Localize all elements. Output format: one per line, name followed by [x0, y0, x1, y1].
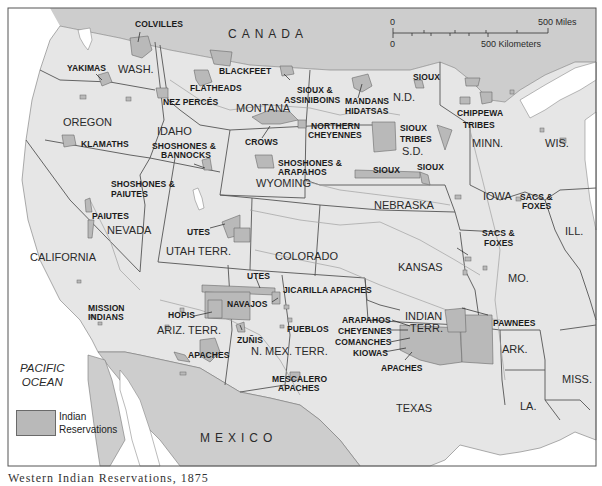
- state-label-indian-terr-1: INDIAN: [405, 311, 442, 322]
- state-label-california: CALIFORNIA: [30, 252, 96, 263]
- tribe-label-crows: CROWS: [245, 138, 278, 147]
- tribe-label-sioux-tribes-2: TRIBES: [400, 135, 432, 144]
- tribe-label-arapahos: ARAPAHOS: [342, 316, 391, 325]
- state-label-sd: S.D.: [402, 146, 423, 157]
- tribe-label-flatheads: FLATHEADS: [190, 84, 242, 93]
- tribe-label-cheyennes: CHEYENNES: [338, 327, 392, 336]
- state-label-oregon: OREGON: [63, 117, 112, 128]
- tribe-label-chippewa-2: TRIBES: [463, 121, 495, 130]
- reservation-northern-cheyennes: [298, 120, 306, 128]
- tribe-label-pawnees: PAWNEES: [493, 319, 536, 328]
- tribe-label-yakimas: YAKIMAS: [67, 64, 106, 73]
- tribe-label-apaches-az: APACHES: [188, 351, 230, 360]
- state-label-la: LA.: [520, 401, 537, 412]
- reservation-jicarilla: [272, 292, 280, 304]
- state-label-mo: MO.: [508, 273, 529, 284]
- reservation-chippewa-3: [460, 97, 470, 104]
- state-label-indian-terr-2: TERR.: [410, 323, 443, 334]
- tribe-label-kiowas: KIOWAS: [353, 349, 388, 358]
- tribe-label-sioux-assiniboins-1: SIOUX &: [297, 86, 333, 95]
- tribe-label-sacs-foxes-kansas-2: FOXES: [484, 239, 513, 248]
- tribe-label-sioux-tribes-1: SIOUX: [400, 124, 427, 133]
- tribe-label-hidatsas: HIDATSAS: [345, 107, 389, 116]
- legend-label-line-2: Reservations: [59, 424, 117, 437]
- state-label-wash: WASH.: [118, 64, 154, 75]
- state-label-texas: TEXAS: [396, 403, 432, 414]
- ocean-label: PACIFIC OCEAN: [20, 362, 65, 390]
- legend-label-line-1: Indian: [59, 411, 117, 424]
- tribe-label-mission-2: INDIANS: [88, 313, 124, 322]
- state-label-miss: MISS.: [562, 374, 592, 385]
- country-label-canada: CANADA: [228, 28, 308, 40]
- state-label-nd: N.D.: [393, 92, 415, 103]
- tribe-label-comanches: COMANCHES: [335, 338, 392, 347]
- reservation-chippewa-2: [480, 92, 492, 104]
- state-label-kansas: KANSAS: [398, 262, 443, 273]
- state-label-utah: UTAH TERR.: [166, 246, 231, 257]
- state-label-montana: MONTANA: [236, 103, 290, 114]
- state-label-colorado: COLORADO: [275, 251, 338, 262]
- tribe-label-zunis: ZUÑIS: [237, 336, 263, 345]
- tribe-label-hopis: HOPIS: [168, 311, 195, 320]
- map-caption: Western Indian Reservations, 1875: [8, 471, 209, 486]
- state-label-nebraska: NEBRASKA: [374, 200, 434, 211]
- tribe-label-chippewa-1: CHIPPEWA: [457, 109, 503, 118]
- tribe-label-jicarilla: JICARILLA APACHES: [283, 286, 372, 295]
- tribe-label-mescalero-2: APACHES: [278, 384, 320, 393]
- tribe-label-paiutes: PAIUTES: [92, 212, 129, 221]
- tribe-label-northern-cheyennes-2: CHEYENNES: [308, 131, 362, 140]
- ocean-label-line-2: OCEAN: [20, 376, 65, 390]
- reservation-klamaths: [62, 135, 76, 147]
- tribe-label-navajos: NAVAJOS: [227, 300, 268, 309]
- tribe-label-klamaths: KLAMATHS: [81, 140, 129, 149]
- state-label-wyoming: WYOMING: [256, 178, 311, 189]
- tribe-label-utes-utah: UTES: [187, 228, 210, 237]
- country-label-mexico: MEXICO: [200, 432, 277, 444]
- state-label-idaho: IDAHO: [157, 126, 192, 137]
- reservation-shoshones-arapahos: [255, 155, 274, 168]
- tribe-label-pueblos: PUEBLOS: [287, 325, 329, 334]
- tribe-label-blackfeet: BLACKFEET: [219, 67, 271, 76]
- state-label-wis: WIS.: [545, 138, 569, 149]
- state-label-minn: MINN.: [472, 138, 503, 149]
- tribe-label-shoshones-arapahos-2: ARAPAHOS: [278, 168, 327, 177]
- tribe-label-shoshones-bannocks-2: BANNOCKS: [161, 151, 211, 160]
- scale-zero-km: 0: [390, 40, 395, 49]
- reservation-utes-utah-2: [234, 228, 250, 242]
- reservation-sioux-assiniboins: [280, 66, 294, 76]
- state-label-ill: ILL.: [565, 226, 583, 237]
- tribe-label-shoshones-paiutes-1: SHOSHONES &: [111, 180, 175, 189]
- tribe-label-shoshones-paiutes-2: PAIUTES: [111, 190, 148, 199]
- tribe-label-apaches-it: APACHES: [381, 364, 423, 373]
- reservation-sioux-tribes: [372, 122, 396, 152]
- reservation-chippewa-1: [465, 78, 480, 86]
- tribe-label-nez-perces: NEZ PERCÉS: [163, 98, 218, 107]
- tribe-label-sacs-foxes-iowa-2: FOXES: [522, 202, 551, 211]
- tribe-label-sioux-sd-1: SIOUX: [373, 166, 400, 175]
- tribe-label-sioux-assiniboins-2: ASSINIBOINS: [284, 96, 340, 105]
- state-label-iowa: IOWA: [483, 191, 512, 202]
- legend-label: Indian Reservations: [59, 411, 117, 436]
- tribe-label-sioux-sd-2: SIOUX: [417, 163, 444, 172]
- state-label-nevada: NEVADA: [107, 225, 151, 236]
- tribe-label-utes-colorado: UTES: [247, 272, 270, 281]
- scale-miles-label: 500 Miles: [538, 18, 577, 27]
- state-label-new-mexico: N. MEX. TERR.: [251, 346, 328, 357]
- reservation-indian-territory-north: [445, 308, 466, 332]
- scale-zero-miles: 0: [390, 18, 395, 27]
- scale-km-label: 500 Kilometers: [481, 40, 541, 49]
- reservation-hopis: [208, 300, 222, 318]
- ocean-label-line-1: PACIFIC: [20, 362, 65, 376]
- tribe-label-mandans: MANDANS: [345, 97, 389, 106]
- state-label-arizona: ARIZ. TERR.: [157, 325, 221, 336]
- legend-swatch-reservations: [16, 410, 56, 436]
- tribe-label-colvilles: COLVILLES: [135, 20, 183, 29]
- tribe-label-sacs-foxes-kansas-1: SACS &: [482, 229, 515, 238]
- state-label-ark: ARK.: [502, 344, 528, 355]
- tribe-label-sioux-nd: SIOUX: [413, 73, 440, 82]
